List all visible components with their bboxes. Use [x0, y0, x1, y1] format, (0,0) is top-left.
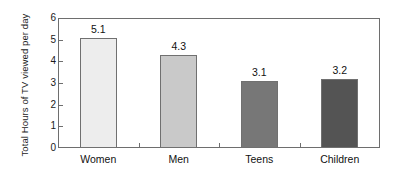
y-tick-label: 1 [40, 121, 56, 131]
bar-chart: Total Hours of TV viewed per day 0123456… [0, 0, 398, 181]
y-tick-label: 5 [40, 35, 56, 45]
bar [241, 81, 278, 148]
bar-value-label: 3.2 [320, 65, 360, 76]
x-axis-tick-labels: WomenMenTeensChildren [58, 152, 380, 168]
bar [321, 79, 358, 148]
y-axis-title: Total Hours of TV viewed per day [18, 10, 32, 160]
x-category-label: Men [139, 152, 219, 166]
bar-value-label: 3.1 [239, 67, 279, 78]
y-tick-label: 2 [40, 100, 56, 110]
y-tick-label: 4 [40, 56, 56, 66]
bars-layer: 5.14.33.13.2 [58, 18, 380, 148]
x-tick-mark [139, 143, 140, 148]
x-category-label: Women [58, 152, 138, 166]
bar-value-label: 5.1 [78, 24, 118, 35]
y-tick-label: 6 [40, 13, 56, 23]
bar [160, 55, 197, 148]
y-tick-label: 3 [40, 78, 56, 88]
y-tick-label: 0 [40, 143, 56, 153]
x-tick-mark [219, 143, 220, 148]
y-axis-tick-labels: 0123456 [38, 18, 56, 148]
x-category-label: Children [300, 152, 380, 166]
bar-value-label: 4.3 [159, 41, 199, 52]
x-category-label: Teens [219, 152, 299, 166]
x-tick-mark [300, 143, 301, 148]
bar [80, 38, 117, 149]
